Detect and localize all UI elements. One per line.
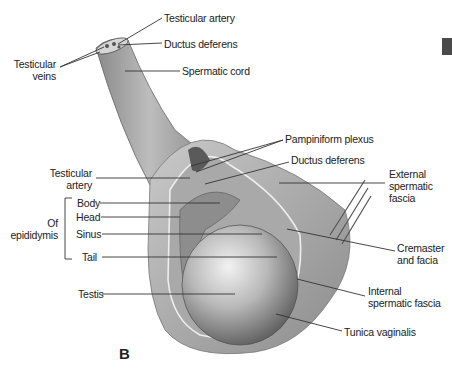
label-body: Body (77, 197, 100, 209)
label-pampiniform-plexus: Pampiniform plexus (285, 133, 374, 145)
label-of-epididymis: Of epididymis (8, 217, 58, 241)
label-testis: Testis (78, 288, 104, 300)
label-testicular-artery-top: Testicular artery (164, 12, 235, 24)
label-ductus-deferens-mid: Ductus deferens (291, 154, 364, 166)
label-external-spermatic-fascia: External spermatic fascia (389, 168, 433, 204)
label-spermatic-cord: Spermatic cord (182, 65, 250, 77)
label-sinus: Sinus (76, 228, 101, 240)
label-testicular-veins: Testicular veins (10, 58, 56, 82)
label-testicular-artery-mid: Testicular artery (44, 167, 92, 191)
label-tail: Tail (82, 251, 97, 263)
label-ductus-deferens-top: Ductus deferens (164, 38, 237, 50)
label-tunica-vaginalis: Tunica vaginalis (344, 326, 416, 338)
label-head: Head (76, 211, 100, 223)
label-cremaster-and-facia: Cremaster and facia (397, 242, 444, 266)
panel-letter: B (119, 345, 130, 362)
label-internal-spermatic-fascia: Internal spermatic fascia (368, 285, 441, 309)
edge-tab-marker (442, 38, 452, 55)
anatomy-figure: Testicular artery Ductus deferens Sperma… (0, 0, 452, 377)
